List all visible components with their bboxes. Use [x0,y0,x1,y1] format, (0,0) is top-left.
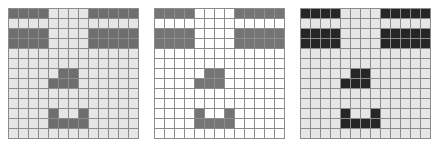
grid-cell [265,9,274,18]
grid-cell [351,9,360,18]
grid-cell [255,39,264,48]
grid-cell [59,9,68,18]
grid-cell [155,129,164,138]
grid-cell [331,129,340,138]
grid-cell [129,39,138,48]
grid-cell [371,109,380,118]
grid-cell [381,19,390,28]
grid-cell [381,9,390,18]
grid-cell [331,119,340,128]
grid-cell [371,9,380,18]
grid-cell [59,59,68,68]
grid-cell [89,29,98,38]
grid-cell [311,39,320,48]
grid-cell [341,9,350,18]
grid-cell [29,79,38,88]
grid-cell [69,99,78,108]
grid-cell [195,99,204,108]
grid-cell [9,119,18,128]
grid-cell [265,29,274,38]
grid-cell [411,39,420,48]
grid-cell [185,89,194,98]
grid-cell [275,9,284,18]
grid-cell [99,29,108,38]
grid-cell [401,19,410,28]
grid-cell [69,19,78,28]
grid-cell [245,29,254,38]
grid-cell [59,119,68,128]
grid-cell [119,49,128,58]
grid-middle [146,0,292,146]
grid-cell [155,59,164,68]
grid-cell [421,29,430,38]
grid-cell [341,89,350,98]
grid-cell [19,9,28,18]
grid-cell [255,49,264,58]
grid-cell [215,89,224,98]
grid-cell [401,99,410,108]
grid-cell [9,99,18,108]
grid-cell [215,19,224,28]
grid-cell [381,129,390,138]
grid-cell [9,109,18,118]
grid-cell [371,59,380,68]
grid-cell [341,109,350,118]
grid-cell [351,59,360,68]
grid-cell [411,119,420,128]
grid-cell [255,79,264,88]
grid-cell [59,79,68,88]
grid-cell [235,39,244,48]
grid-cell [19,89,28,98]
grid-cell [29,29,38,38]
grid-cell [381,109,390,118]
grid-cell [49,119,58,128]
grid-cell [321,39,330,48]
grid-cell [331,39,340,48]
grid-cell [311,129,320,138]
grid-cell [411,19,420,28]
grid-cell [39,89,48,98]
grid-cell [39,69,48,78]
grid-cell [351,19,360,28]
grid-cell [59,89,68,98]
grid-cell [59,99,68,108]
grid-cell [9,9,18,18]
grid-cell [99,89,108,98]
grid-cell [301,119,310,128]
grid-cell [99,109,108,118]
grid-cell [9,19,18,28]
grid-cell [301,99,310,108]
grid-cell [119,109,128,118]
grid-cell [411,99,420,108]
grid-cell [301,79,310,88]
grid-cell [175,99,184,108]
grid-cell [255,99,264,108]
grid-cell [401,49,410,58]
grid-cell [331,59,340,68]
grid-cell [341,19,350,28]
grid-cell [185,79,194,88]
grid-cell [275,109,284,118]
grid-cell [89,89,98,98]
grid-cell [155,69,164,78]
grid-cell [245,79,254,88]
grid-cell [215,109,224,118]
grid-cell [165,119,174,128]
grid-cell [225,109,234,118]
grid-cell [275,19,284,28]
grid-cell [39,119,48,128]
grid-cell [175,59,184,68]
grid-cell [331,49,340,58]
grid-cell [79,69,88,78]
grid-cell [215,39,224,48]
grid-cell [371,129,380,138]
grid-cell [265,99,274,108]
grid-cell [351,129,360,138]
grid-cell [255,109,264,118]
grid-cell [59,19,68,28]
grid-cell [89,119,98,128]
grid-cell [119,79,128,88]
grid-cell [9,129,18,138]
grid-cell [331,99,340,108]
grid-cell [235,109,244,118]
